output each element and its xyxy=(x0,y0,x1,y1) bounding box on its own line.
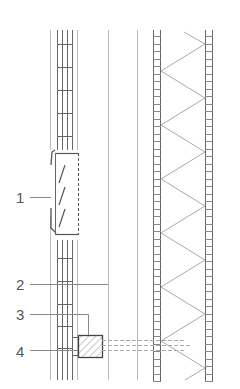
label-4: 4 xyxy=(16,343,24,360)
label-3: 3 xyxy=(16,306,24,323)
inner-board-left-ticks xyxy=(153,37,161,382)
brick-column-top xyxy=(57,30,73,150)
outer-cladding xyxy=(51,30,78,380)
anchor-block xyxy=(72,336,190,358)
insulation-zigzag xyxy=(161,32,205,380)
leader-lines xyxy=(30,198,108,351)
cavity-lines xyxy=(109,30,138,380)
label-1: 1 xyxy=(16,189,24,206)
inner-board-right-ticks xyxy=(205,37,213,382)
wall-section-diagram: 1 2 3 4 xyxy=(0,0,240,389)
vent-grille xyxy=(51,150,79,235)
brick-column-bottom xyxy=(57,240,73,380)
label-2: 2 xyxy=(16,276,24,293)
